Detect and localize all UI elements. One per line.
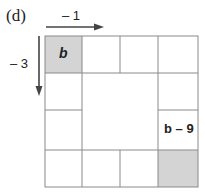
down-arrow-icon [36, 36, 43, 96]
cell-label-b-minus-9: b – 9 [164, 121, 194, 136]
shaded-cell-bottom-right [158, 150, 198, 187]
grid-diagram [0, 0, 205, 194]
right-arrow-icon [46, 24, 104, 31]
cell-label-b: b [59, 45, 68, 61]
